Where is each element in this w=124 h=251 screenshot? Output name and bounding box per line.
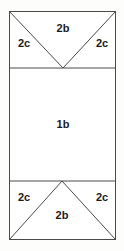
- label-center-1b: 1b: [57, 119, 70, 130]
- label-top-right-2c: 2c: [96, 38, 108, 49]
- label-bottom-right-2c: 2c: [96, 192, 108, 203]
- label-top-left-2c: 2c: [18, 38, 30, 49]
- label-top-2b: 2b: [57, 23, 70, 34]
- label-bottom-left-2c: 2c: [18, 192, 30, 203]
- label-bottom-2b: 2b: [56, 210, 69, 221]
- net-diagram-figure: 2b 2c 2c 1b 2c 2c 2b: [0, 0, 124, 251]
